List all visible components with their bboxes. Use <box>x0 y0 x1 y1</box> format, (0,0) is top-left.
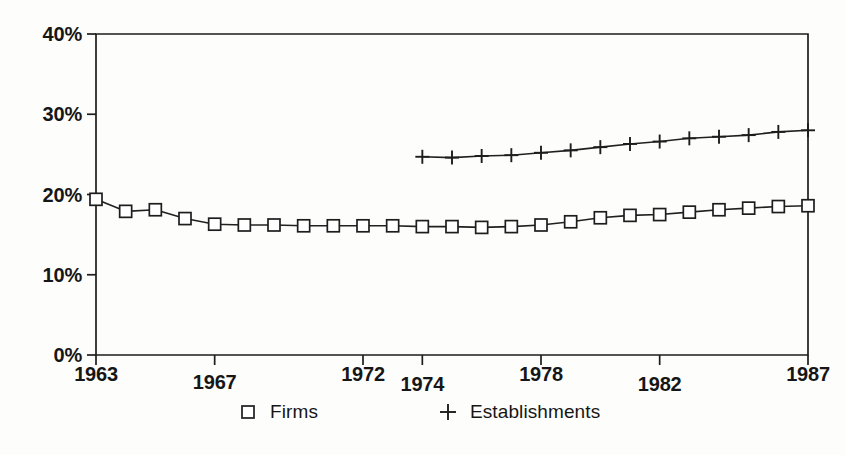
data-point-marker <box>772 201 784 213</box>
y-tick-label: 40% <box>43 23 83 45</box>
x-tick-label: 1974 <box>400 373 445 395</box>
data-point-marker <box>387 220 399 232</box>
data-point-marker <box>242 406 254 418</box>
line-chart: 0%10%20%30%40% 1963196719721974197819821… <box>0 0 845 455</box>
y-axis-tick-labels: 0%10%20%30%40% <box>43 23 83 366</box>
data-point-marker <box>535 219 547 231</box>
series-establishments <box>415 123 815 164</box>
x-axis-ticks <box>96 355 808 365</box>
data-point-marker <box>268 219 280 231</box>
y-tick-label: 30% <box>43 103 83 125</box>
data-point-marker <box>565 216 577 228</box>
legend-entry-label: Establishments <box>470 401 600 422</box>
data-point-marker <box>743 202 755 214</box>
data-point-marker <box>327 220 339 232</box>
legend-entry-label: Firms <box>270 401 318 422</box>
x-tick-label: 1978 <box>519 363 563 385</box>
data-point-marker <box>654 209 666 221</box>
data-point-marker <box>209 218 221 230</box>
data-point-marker <box>683 206 695 218</box>
legend-entry: Establishments <box>440 401 600 422</box>
data-point-marker <box>416 221 428 233</box>
data-point-marker <box>446 221 458 233</box>
x-axis-tick-labels: 1963196719721974197819821987 <box>74 363 830 395</box>
chart-figure: 0%10%20%30%40% 1963196719721974197819821… <box>0 0 845 455</box>
data-point-marker <box>594 212 606 224</box>
plot-frame <box>96 34 808 355</box>
data-point-marker <box>90 193 102 205</box>
data-point-marker <box>298 220 310 232</box>
x-tick-label: 1967 <box>193 371 237 393</box>
data-point-marker <box>505 221 517 233</box>
data-point-marker <box>713 204 725 216</box>
data-point-marker <box>624 209 636 221</box>
x-tick-label: 1963 <box>74 363 118 385</box>
legend-entry: Firms <box>242 401 318 422</box>
data-point-marker <box>476 221 488 233</box>
data-point-marker <box>179 213 191 225</box>
series-firms <box>90 193 814 233</box>
x-tick-label: 1982 <box>638 373 682 395</box>
y-tick-label: 10% <box>43 264 83 286</box>
data-point-marker <box>357 220 369 232</box>
data-point-marker <box>120 205 132 217</box>
chart-legend: FirmsEstablishments <box>242 401 600 422</box>
data-point-marker <box>149 204 161 216</box>
data-point-marker <box>238 219 250 231</box>
x-tick-label: 1972 <box>341 363 385 385</box>
y-tick-label: 20% <box>43 184 83 206</box>
data-point-marker <box>802 200 814 212</box>
x-tick-label: 1987 <box>786 363 830 385</box>
